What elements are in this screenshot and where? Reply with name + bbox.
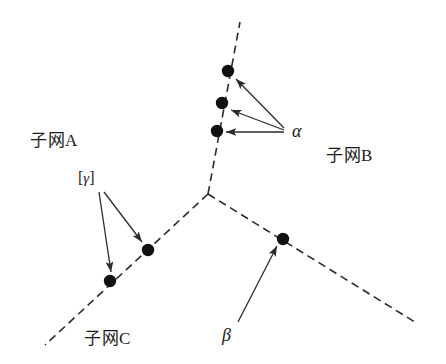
- gamma-arrow-1: [99, 192, 111, 272]
- gamma-bracket-close: ]: [89, 169, 94, 186]
- subnet-a-label: 子网A: [30, 132, 78, 149]
- branch-line-subnet-a-c: [45, 194, 208, 345]
- branch-line-lower-right: [208, 194, 418, 324]
- beta-label: β: [222, 326, 231, 344]
- node-b3[interactable]: [211, 125, 223, 137]
- gamma-arrow-2: [104, 192, 142, 242]
- node-c1[interactable]: [277, 233, 289, 245]
- beta-arrow-1: [238, 246, 277, 322]
- subnet-c-label: 子网C: [84, 330, 131, 347]
- node-b1[interactable]: [222, 65, 234, 77]
- node-a1[interactable]: [142, 244, 154, 256]
- nodes: [104, 65, 289, 287]
- node-b2[interactable]: [216, 97, 228, 109]
- diagram-canvas: [0, 0, 446, 364]
- figure-root: 子网A 子网B 子网C α β [γ]: [0, 0, 446, 364]
- annotation-arrows: [99, 79, 284, 322]
- subnet-b-label: 子网B: [326, 147, 373, 164]
- node-a2[interactable]: [104, 275, 116, 287]
- gamma-label: [γ]: [78, 170, 95, 186]
- alpha-label: α: [292, 122, 301, 140]
